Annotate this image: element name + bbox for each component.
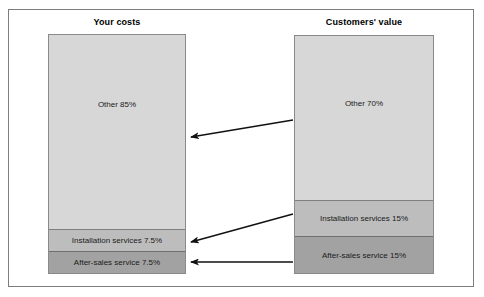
stacked-bar-customers-value: Other 70% Installation services 15% Afte…: [294, 35, 434, 274]
bar-segment-aftersales-left[interactable]: After-sales service 7.5%: [49, 251, 185, 273]
column-title-your-costs: Your costs: [48, 17, 186, 27]
bar-segment-installation-left[interactable]: Installation services 7.5%: [49, 229, 185, 251]
bar-segment-label: After-sales service 15%: [322, 251, 406, 260]
column-title-customers-value: Customers' value: [294, 17, 434, 27]
bar-segment-label: Other 85%: [98, 100, 136, 109]
diagram-canvas: Your costs Customers' value Other 85% In…: [0, 0, 484, 297]
bar-segment-installation-right[interactable]: Installation services 15%: [295, 200, 433, 236]
bar-segment-label: Installation services 7.5%: [72, 236, 162, 245]
bar-segment-aftersales-right[interactable]: After-sales service 15%: [295, 236, 433, 273]
bar-segment-label: Installation services 15%: [320, 214, 408, 223]
bar-segment-other-left[interactable]: Other 85%: [49, 35, 185, 229]
bar-segment-label: Other 70%: [345, 99, 383, 108]
bar-segment-label: After-sales service 7.5%: [74, 258, 160, 267]
bar-segment-other-right[interactable]: Other 70%: [295, 36, 433, 200]
stacked-bar-your-costs: Other 85% Installation services 7.5% Aft…: [48, 34, 186, 274]
